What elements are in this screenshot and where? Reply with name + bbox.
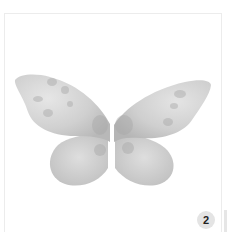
left-hindwing xyxy=(50,134,108,185)
page-number-badge[interactable]: 2 xyxy=(197,211,215,229)
right-hindwing xyxy=(115,135,174,186)
butterfly-wings-image xyxy=(0,0,227,232)
badge-number: 2 xyxy=(203,214,209,226)
